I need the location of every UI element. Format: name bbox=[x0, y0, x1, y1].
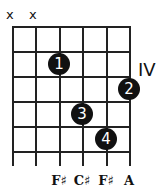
string-line bbox=[82, 26, 84, 166]
finger-3-dot: 3 bbox=[71, 103, 93, 125]
finger-4-dot: 4 bbox=[95, 128, 117, 150]
finger-2-dot: 2 bbox=[118, 78, 140, 100]
finger-1-dot: 1 bbox=[48, 53, 70, 75]
fret-line bbox=[12, 76, 130, 78]
fret-position-label: IV bbox=[138, 59, 156, 80]
fret-line bbox=[12, 151, 130, 153]
fret-line bbox=[12, 126, 130, 128]
note-label: C♯ bbox=[72, 173, 92, 188]
string-line bbox=[59, 26, 61, 166]
muted-string-6-marker: x bbox=[6, 8, 14, 21]
note-label: F♯ bbox=[96, 173, 116, 188]
note-label: A bbox=[119, 173, 139, 188]
fret-line bbox=[12, 51, 130, 53]
string-line bbox=[35, 26, 37, 166]
note-label: F♯ bbox=[49, 173, 69, 188]
string-line bbox=[12, 26, 14, 166]
fret-line bbox=[12, 101, 130, 103]
muted-string-5-marker: x bbox=[29, 8, 37, 21]
fret-line bbox=[12, 26, 130, 28]
